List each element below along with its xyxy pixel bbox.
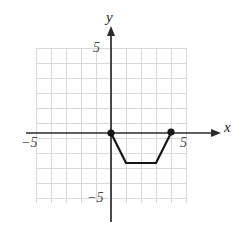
endpoint-dot-right [167,128,174,135]
x-axis-label: x [224,120,231,135]
x-axis-tick-label-negative-5: −5 [21,136,37,150]
endpoint-dot-left [107,129,114,136]
y-axis-tick-label-negative-5: −5 [87,191,103,205]
x-axis-tick-label-5: 5 [180,136,187,150]
coordinate-plane-figure [0,0,242,229]
y-axis-label: y [106,10,113,25]
y-axis-tick-label-5: 5 [93,41,100,55]
